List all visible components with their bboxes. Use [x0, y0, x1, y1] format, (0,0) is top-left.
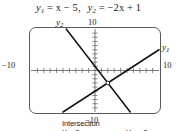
axis-label-left: −10 — [2, 60, 15, 70]
intersection-label: Intersection — [62, 119, 100, 128]
intersection-x-value: X = 2 — [62, 128, 79, 131]
equation-y2: y2 = −2x + 1 — [88, 2, 141, 13]
curve-label-y1: y1 — [162, 42, 170, 54]
graph-frame-wrapper: Intersection X = 2 Y = −3 — [29, 27, 161, 114]
equation-title: y1 = x − 5,y2 = −2x + 1 — [0, 2, 177, 15]
axis-label-top: 10 — [88, 17, 97, 27]
line-y1 — [63, 50, 159, 112]
intersection-marker — [106, 81, 110, 85]
graph-plot — [29, 27, 161, 114]
axis-label-right: 10 — [163, 60, 172, 70]
equation-y1: y1 = x − 5, — [36, 2, 81, 13]
intersection-y-value: Y = −3 — [126, 128, 147, 131]
graph-figure: y1 = x − 5,y2 = −2x + 1 10 −10 10 −10 y2… — [0, 0, 177, 131]
